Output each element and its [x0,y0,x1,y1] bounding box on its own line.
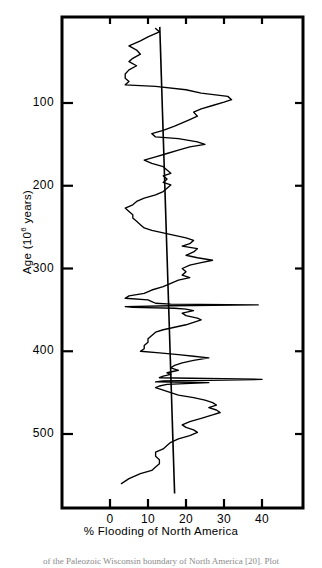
x-tick-label: 0 [90,512,130,526]
x-axis-ticks [110,17,262,508]
x-tick-label: 20 [166,512,206,526]
x-tick-label: 30 [204,512,244,526]
x-tick-label: 40 [242,512,282,526]
y-tick-label: 300 [14,261,54,275]
x-axis-title: % Flooding of North America [0,525,322,537]
flooding-curve [121,29,262,484]
y-tick-label: 500 [14,426,54,440]
figure-container: Age (106 years) 100200300400500 01020304… [0,0,322,568]
y-tick-label: 100 [14,95,54,109]
y-tick-label: 400 [14,343,54,357]
plot-area [0,0,322,568]
plot-frame [62,17,303,508]
x-tick-label: 10 [128,512,168,526]
y-tick-label: 200 [14,178,54,192]
figure-caption: of the Paleozoic Wisconsin boundary of N… [0,556,322,568]
trend-line [160,27,175,494]
